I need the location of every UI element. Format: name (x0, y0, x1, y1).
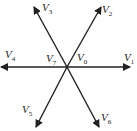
vector-label-v5: V5 (22, 103, 33, 118)
space-vector-diagram: V1V2V3V4V5V6V7V0 (0, 0, 137, 131)
vector-label-v4: V4 (5, 48, 16, 63)
vector-arrow-v5 (36, 67, 67, 127)
vector-label-v1: V1 (124, 51, 135, 66)
vector-label-v2: V2 (102, 3, 113, 18)
zero-vector-label-v7: V7 (46, 52, 57, 67)
vector-label-v6: V6 (101, 111, 112, 126)
vector-label-v3: V3 (42, 1, 53, 16)
vector-arrow-v6 (67, 67, 99, 127)
zero-vector-label-v0: V0 (77, 51, 88, 66)
